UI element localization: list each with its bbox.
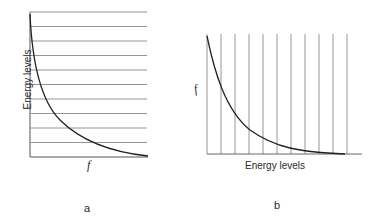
panel-a-x-axis-label: f [87,158,90,173]
panel-b-caption: b [274,199,280,211]
panel-b [207,34,362,154]
diagram-canvas [0,0,375,224]
panel-a [30,12,148,157]
panel-a-energy-level-lines [30,12,147,143]
panel-b-energy-level-lines [207,34,347,154]
panel-a-y-axis-label: Energy levels [22,45,33,115]
panel-a-distribution-curve [30,14,148,156]
panel-b-x-axis-label: Energy levels [245,160,305,171]
panel-b-distribution-curve [207,36,345,154]
panel-a-caption: a [84,202,90,214]
